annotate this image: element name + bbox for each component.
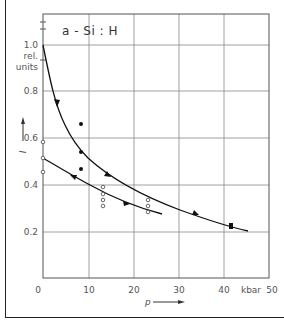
open-points: [41, 140, 150, 214]
xtick-0: 0: [35, 285, 41, 295]
chart-title: a - Si : H: [62, 24, 118, 38]
ytick-0.2: 0.2: [24, 227, 38, 237]
curve-arrow-icon: [70, 175, 77, 180]
x-unit: kbar: [241, 285, 261, 295]
chart: a - Si : H 1.0 rel. units 0.8 0.6 0.4 0.…: [0, 0, 284, 321]
xtick-10: 10: [83, 285, 95, 295]
ytick-1.0: 1.0: [24, 40, 39, 50]
svg-text:p: p: [144, 297, 151, 307]
arrow-up-icon: [21, 117, 25, 124]
xtick-30: 30: [173, 285, 185, 295]
curve-arrow-icon: [54, 99, 60, 107]
y-unit-line2: units: [16, 62, 38, 72]
y-unit-line1: rel.: [24, 51, 38, 61]
ytick-0.4: 0.4: [24, 180, 39, 190]
svg-text:I: I: [18, 150, 28, 153]
ytick-0.8: 0.8: [24, 86, 39, 96]
x-axis-label: p: [144, 297, 185, 307]
xtick-40: 40: [218, 285, 230, 295]
xtick-50: 50: [266, 285, 278, 295]
xtick-20: 20: [128, 285, 140, 295]
ytick-0.6: 0.6: [24, 133, 39, 143]
arrow-right-icon: [178, 300, 185, 304]
curve-arrow-icon: [192, 210, 199, 215]
